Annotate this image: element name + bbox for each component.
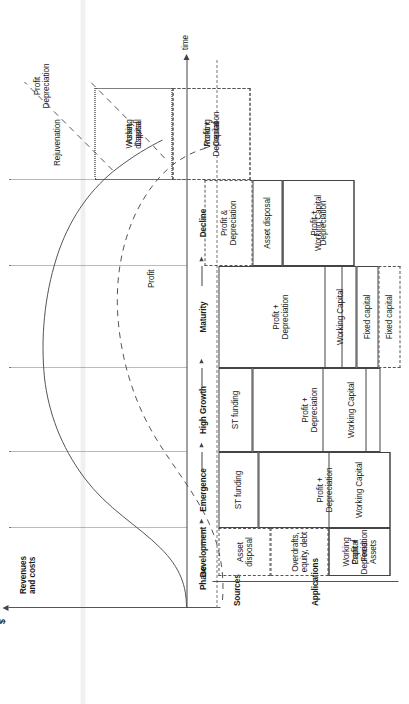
box-label: Working Capital [202,118,220,149]
box-label: Asset disposal [262,196,271,249]
source-box-decline-9: Asset disposal [252,180,282,266]
application-box-maturity-3: Working Capital [324,266,356,368]
box-label: ST funding [230,390,239,430]
box-label: Working Capital [346,381,355,439]
application-box-rejuvenation-8: Working Capital [94,88,172,180]
box-label: Fixed capital [362,294,371,341]
source-box-development-1: Overdrafts, equity, debt [270,528,328,576]
phase-connector-3 [201,368,202,388]
box-label: Profit + Depreciation [300,387,318,434]
profit-curve-label: Profit [146,269,155,288]
phase-connector-2 [201,452,202,472]
source-box-maturity-7: Profit + Depreciation [218,266,342,368]
source-label-rejuvenation-13: Profit Depreciation [32,36,50,136]
lifecycle-figure-rotor: $Revenues and coststimeRejuvenationProfi… [0,0,409,704]
lifecycle-figure: $Revenues and coststimeRejuvenationProfi… [0,0,409,704]
phase-connector-1 [201,528,202,548]
box-label: Working Capital Fixed Assets [341,529,378,575]
application-box-rejuvenation-7: Working Capital [172,88,250,180]
application-box-development-0: Working Capital Fixed Assets [328,528,390,576]
phase-arrowhead-2 [198,443,202,447]
phase-arrowhead-3 [198,359,202,363]
application-box-high-growth-2: Working Capital [322,368,380,452]
source-box-development-0: Asset disposal [218,528,270,576]
source-box-high-growth-5: ST funding [218,368,252,452]
box-label: Working Capital [313,194,322,252]
box-label: Profit & Depreciation [219,200,237,247]
application-box-emergence-1: Working Capital [328,452,390,528]
application-box-decline-6: Working Capital [282,180,354,266]
revenue-cost-curve [43,140,187,608]
application-box-maturity-5: Fixed capital [378,266,400,368]
phase-arrowhead-1 [198,519,202,523]
row-label-sources: Sources [232,574,241,606]
box-label: Asset disposal [235,529,253,575]
phase-connector-4 [201,266,202,286]
box-label: Working Capital [335,288,344,346]
phase-label-high-growth: High Growth [198,370,207,450]
source-box-emergence-3: ST funding [218,452,258,528]
box-label: Overdrafts, equity, debt [290,531,308,574]
box-label: Working Capital [354,461,363,519]
source-box-decline-8: Profit & Depreciation [204,180,252,266]
application-box-maturity-4: Fixed capital [356,266,378,368]
rejuvenation-curve-label: Rejuvenation [52,119,61,166]
box-label: ST funding [233,470,242,510]
phase-label-maturity: Maturity [198,277,207,357]
sources-applications-divider [212,581,398,582]
box-label: Profit + Depreciation [271,294,289,341]
box-label: Working Capital [124,118,142,149]
phase-arrowhead-4 [198,257,202,261]
box-label: Fixed capital [384,294,393,341]
